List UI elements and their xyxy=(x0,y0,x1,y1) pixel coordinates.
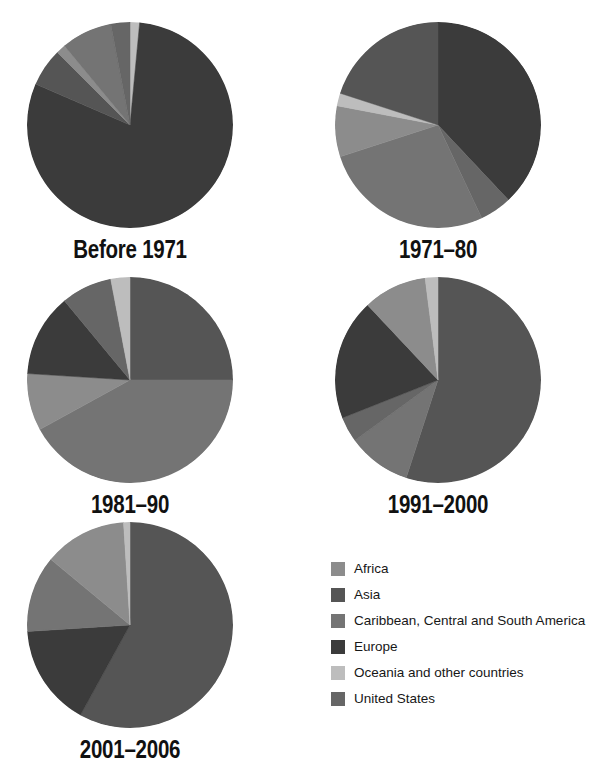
legend-item-label: Oceania and other countries xyxy=(354,666,524,680)
pie-chart[interactable] xyxy=(27,22,233,228)
legend-color-swatch xyxy=(331,562,345,576)
legend-item[interactable]: Asia xyxy=(331,582,603,607)
pie-panel: 1991–2000 xyxy=(330,277,546,517)
pie-panel: 1971–80 xyxy=(330,22,546,262)
pie-panel: 2001–2006 xyxy=(22,522,238,762)
legend-color-swatch xyxy=(331,588,345,602)
pie-chart-svg xyxy=(27,277,233,483)
pie-chart[interactable] xyxy=(27,522,233,728)
legend-item[interactable]: Caribbean, Central and South America xyxy=(331,608,603,633)
chart-legend: Africa Asia Caribbean, Central and South… xyxy=(331,556,603,712)
pie-chart-title: Before 1971 xyxy=(41,237,218,262)
legend-item[interactable]: Africa xyxy=(331,556,603,581)
pie-chart-container xyxy=(22,22,238,228)
legend-item-label: Asia xyxy=(354,588,380,602)
pie-panel: 1981–90 xyxy=(22,277,238,517)
legend-item-label: Caribbean, Central and South America xyxy=(354,614,585,628)
legend-color-swatch xyxy=(331,666,345,680)
legend-color-swatch xyxy=(331,692,345,706)
pie-chart-title: 1991–2000 xyxy=(349,492,526,517)
pie-chart-svg xyxy=(335,277,541,483)
legend-color-swatch xyxy=(331,614,345,628)
pie-chart-title: 2001–2006 xyxy=(41,737,218,762)
pie-chart-title: 1981–90 xyxy=(41,492,218,517)
pie-chart-title: 1971–80 xyxy=(349,237,526,262)
legend-item-label: Africa xyxy=(354,562,389,576)
legend-color-swatch xyxy=(331,640,345,654)
legend-item-label: United States xyxy=(354,692,435,706)
pie-chart[interactable] xyxy=(335,277,541,483)
pie-slice[interactable] xyxy=(130,277,233,380)
pie-chart-figure: Before 1971 1971–80 1981–90 1991–2000 20… xyxy=(0,0,609,762)
legend-item[interactable]: United States xyxy=(331,686,603,711)
legend-item-label: Europe xyxy=(354,640,398,654)
pie-chart[interactable] xyxy=(27,277,233,483)
pie-chart-container xyxy=(22,277,238,483)
pie-chart-container xyxy=(330,22,546,228)
pie-chart-svg xyxy=(27,522,233,728)
pie-panel: Before 1971 xyxy=(22,22,238,262)
pie-chart-container xyxy=(22,522,238,728)
pie-chart-svg xyxy=(335,22,541,228)
legend-item[interactable]: Oceania and other countries xyxy=(331,660,603,685)
legend-item[interactable]: Europe xyxy=(331,634,603,659)
pie-chart-container xyxy=(330,277,546,483)
pie-chart[interactable] xyxy=(335,22,541,228)
pie-chart-svg xyxy=(27,22,233,228)
